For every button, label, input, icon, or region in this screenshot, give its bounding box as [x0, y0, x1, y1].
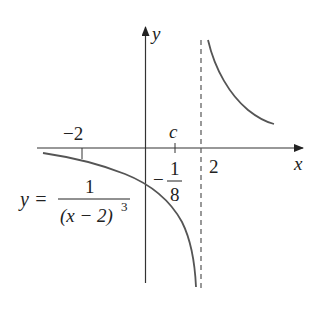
- equation-denominator: (x − 2): [60, 205, 113, 227]
- equation-lhs: y =: [18, 188, 47, 211]
- y-axis-label: y: [150, 23, 161, 44]
- tick-label-2: 2: [209, 156, 219, 177]
- tick-label-c: c: [169, 121, 178, 142]
- equation-numerator: 1: [85, 176, 95, 197]
- function-graph: y x −2 c 2 − 1 8 y = 1 (x − 2) 3: [0, 0, 324, 311]
- equation-exponent: 3: [121, 199, 128, 214]
- tick-label-neg2: −2: [63, 123, 83, 144]
- y-intercept-denominator: 8: [170, 184, 180, 205]
- y-intercept-sign: −: [153, 169, 164, 190]
- function-equation: y = 1 (x − 2) 3: [18, 176, 130, 227]
- y-intercept-numerator: 1: [170, 158, 180, 179]
- curve-right-branch: [208, 40, 274, 124]
- y-intercept-label: − 1 8: [153, 158, 182, 205]
- x-axis-label: x: [293, 153, 303, 174]
